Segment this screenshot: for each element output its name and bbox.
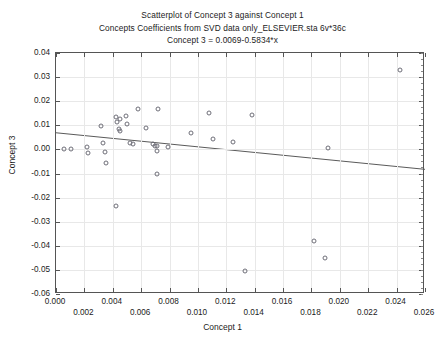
gridline-horizontal: [56, 174, 423, 175]
y-axis-title: Concept 3: [7, 110, 17, 200]
data-point: [85, 151, 90, 156]
y-axis-minor-tick: [421, 83, 423, 84]
gridline-vertical: [397, 53, 398, 292]
y-axis-minor-tick: [421, 282, 423, 283]
x-axis-tick-label: 0.004: [102, 297, 123, 306]
x-axis-tick-label: 0.026: [414, 308, 435, 317]
x-axis-tick-label: 0.012: [215, 297, 236, 306]
y-axis-minor-tick: [421, 222, 423, 223]
data-point: [166, 144, 171, 149]
x-axis-tick: [226, 53, 227, 57]
y-axis-tick-label: -0.01: [31, 168, 50, 177]
y-axis-minor-tick: [421, 71, 423, 72]
data-point: [100, 141, 105, 146]
y-axis-minor-tick: [421, 204, 423, 205]
x-axis-title: Concept 1: [0, 322, 445, 332]
y-axis-minor-tick: [421, 294, 423, 295]
x-axis-tick-label: 0.010: [187, 308, 208, 317]
y-axis-tick: [56, 174, 60, 175]
x-axis-tick-label: 0.018: [300, 308, 321, 317]
data-point: [322, 255, 327, 260]
x-axis-tick: [397, 288, 398, 292]
y-axis-tick-label: 0.00: [34, 144, 50, 153]
y-axis-minor-tick: [421, 137, 423, 138]
gridline-vertical: [84, 53, 85, 292]
x-axis-tick-label: 0.008: [158, 297, 179, 306]
y-axis-minor-tick: [421, 149, 423, 150]
data-point: [398, 67, 403, 72]
x-axis-tick: [311, 288, 312, 292]
data-point: [188, 131, 193, 136]
data-point: [84, 145, 89, 150]
y-axis-minor-tick: [421, 198, 423, 199]
x-axis-tick: [84, 53, 85, 57]
data-point: [117, 129, 122, 134]
y-axis-tick-label: -0.05: [31, 264, 50, 273]
y-axis-minor-tick: [421, 246, 423, 247]
y-axis-minor-tick: [421, 270, 423, 271]
gridline-vertical: [311, 53, 312, 292]
data-point: [104, 161, 109, 166]
y-axis-minor-tick: [421, 107, 423, 108]
x-axis-tick: [368, 288, 369, 292]
x-axis-tick-label: 0.000: [45, 297, 66, 306]
data-point: [68, 146, 73, 151]
x-axis-tick: [84, 288, 85, 292]
y-axis-minor-tick: [421, 192, 423, 193]
gridline-horizontal: [56, 101, 423, 102]
x-axis-tick: [255, 53, 256, 57]
chart-equation: Concept 3 = 0.0069-0.5834*x: [0, 34, 445, 47]
data-point: [326, 146, 331, 151]
y-axis-minor-tick: [421, 125, 423, 126]
gridline-vertical: [340, 53, 341, 292]
data-point: [61, 146, 66, 151]
x-axis-tick-label: 0.014: [243, 308, 264, 317]
x-axis-tick: [226, 288, 227, 292]
y-axis-tick: [56, 149, 60, 150]
x-axis-tick: [255, 288, 256, 292]
y-axis-minor-tick: [421, 101, 423, 102]
y-axis-tick-label: 0.01: [34, 120, 50, 129]
y-axis-minor-tick: [421, 288, 423, 289]
x-axis-tick-label: 0.016: [272, 297, 293, 306]
y-axis-minor-tick: [421, 210, 423, 211]
y-axis-tick-label: 0.04: [34, 48, 50, 57]
x-axis-tick: [283, 288, 284, 292]
y-axis-minor-tick: [421, 234, 423, 235]
y-axis-tick: [56, 101, 60, 102]
x-axis-tick: [425, 288, 426, 292]
data-point: [124, 121, 129, 126]
y-axis-tick: [56, 270, 60, 271]
y-axis-minor-tick: [421, 59, 423, 60]
data-point: [249, 112, 254, 117]
x-axis-tick: [368, 53, 369, 57]
x-axis-tick: [113, 288, 114, 292]
y-axis-tick-label: 0.03: [34, 72, 50, 81]
y-axis-minor-tick: [421, 276, 423, 277]
y-axis-minor-tick: [421, 77, 423, 78]
x-axis-tick: [198, 288, 199, 292]
chart-subtitle: Concepts Coefficients from SVD data only…: [0, 22, 445, 35]
x-axis-tick: [340, 53, 341, 57]
chart-title-block: Scatterplot of Concept 3 against Concept…: [0, 9, 445, 47]
gridline-vertical: [141, 53, 142, 292]
gridline-horizontal: [56, 270, 423, 271]
data-point: [136, 107, 141, 112]
y-axis-tick-label: -0.03: [31, 216, 50, 225]
data-point: [242, 269, 247, 274]
gridline-horizontal: [56, 222, 423, 223]
y-axis-tick: [56, 294, 60, 295]
x-axis-tick-label: 0.002: [73, 308, 94, 317]
x-axis-tick: [397, 53, 398, 57]
gridline-horizontal: [56, 246, 423, 247]
x-axis-tick-label: 0.020: [329, 297, 350, 306]
y-axis-tick: [56, 222, 60, 223]
data-point: [102, 149, 107, 154]
data-point: [123, 113, 128, 118]
y-axis-minor-tick: [421, 240, 423, 241]
y-axis-minor-tick: [421, 216, 423, 217]
x-axis-tick-label: 0.024: [385, 297, 406, 306]
x-axis-tick: [141, 53, 142, 57]
data-point: [155, 148, 160, 153]
y-axis-minor-tick: [421, 119, 423, 120]
